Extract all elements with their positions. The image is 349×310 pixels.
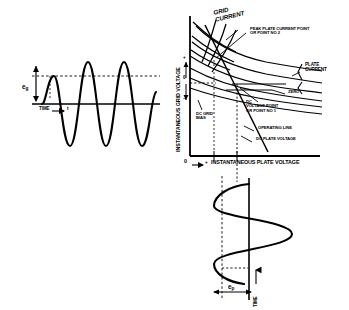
bottom-waveform-group [213,176,292,300]
leader-dc-grid-bias [198,100,202,110]
left-time-variable: t [67,107,68,112]
annotation-peak-plate-current-point: PEAK PLATE CURRENT POINT OR POINT NO 2 [250,27,309,36]
figure-vector-layer [0,0,349,310]
annotation-dc-grid-bias: DC GRID BIAS [196,112,213,121]
bottom-amplitude-label: ep [228,284,234,292]
operating-line [205,25,268,152]
y-axis-plus-arrowhead [184,62,189,67]
center-origin-label: 0 [184,159,187,165]
y-axis-plus-label: + [183,56,186,61]
annotation-dc-voltage-point: DC VOLTAGE POINT OR POINT NO 1 [246,100,278,113]
leader-zero [272,90,285,94]
bottom-time-label: TIME [254,296,259,307]
leader-dc-plate-voltage [241,136,252,142]
y-axis-minus-label: − [183,97,186,102]
annotation-operating-line: OPERATING LINE [258,126,292,130]
left-amplitude-arrowhead-down [33,96,39,102]
leader-operating-line [244,126,254,131]
annotation-zero: ZERO [288,90,299,94]
center-plot-group [184,16,323,182]
left-waveform-group [32,62,160,146]
annotation-dc-plate-voltage: DC PLATE VOLTAGE [256,137,296,141]
bottom-amplitude-arrowhead-left [213,290,219,295]
y-axis-zero-label: 0 [183,76,185,81]
figure-canvas: eg TIME t INSTANTANEOUS GRID VOLTAGE + 0… [0,0,349,310]
center-x-axis-title: INSTANTANEOUS PLATE VOLTAGE [211,160,299,166]
annotation-plate-current: PLATE CURRENT [305,63,327,73]
center-y-axis-title: INSTANTANEOUS GRID VOLTAGE [176,67,182,152]
left-amplitude-label: eg [22,84,28,92]
left-amplitude-arrowhead-up [33,66,39,72]
left-time-label: TIME [39,107,50,112]
x-axis-plus-label: + [205,161,208,166]
bottom-sine-wave [214,184,292,284]
